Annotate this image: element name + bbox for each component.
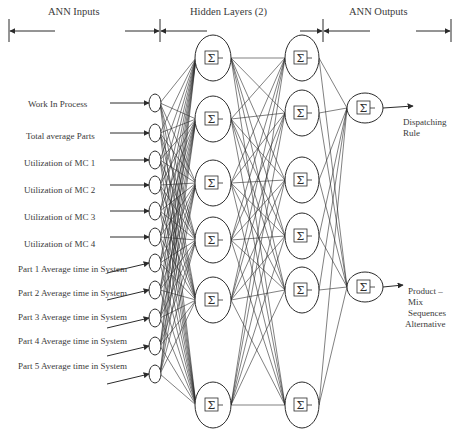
input-node bbox=[149, 309, 161, 327]
input-label-7: Part 2 Average time in System bbox=[18, 288, 127, 298]
input-label-9: Part 4 Average time in System bbox=[18, 336, 127, 346]
sigma-symbol: Σ bbox=[208, 294, 216, 307]
sigma-symbol: Σ bbox=[297, 399, 305, 412]
input-node bbox=[149, 124, 161, 142]
sigma-symbol: Σ bbox=[208, 52, 216, 65]
input-node bbox=[149, 151, 161, 169]
section-label-outputs: ANN Outputs bbox=[349, 6, 408, 17]
section-label-inputs: ANN Inputs bbox=[48, 6, 100, 17]
input-node bbox=[149, 94, 161, 112]
output-label-line: Mix bbox=[408, 297, 446, 308]
hidden2-node: Σ bbox=[285, 157, 319, 203]
sigma-symbol: Σ bbox=[297, 174, 305, 187]
hidden1-node: Σ bbox=[195, 160, 231, 206]
sigma-symbol: Σ bbox=[208, 399, 216, 412]
hidden2-node: Σ bbox=[285, 35, 319, 81]
input-label-5: Utilization of MC 4 bbox=[24, 239, 95, 249]
hidden1-node: Σ bbox=[195, 217, 231, 263]
input-label-1: Total average Parts bbox=[26, 131, 95, 141]
sigma-symbol: Σ bbox=[297, 230, 305, 243]
input-label-0: Work In Process bbox=[28, 99, 87, 109]
input-node bbox=[149, 228, 161, 246]
input-label-3: Utilization of MC 2 bbox=[24, 185, 95, 195]
hidden1-node: Σ bbox=[195, 382, 231, 428]
input-label-10: Part 5 Average time in System bbox=[18, 361, 127, 371]
input-node bbox=[149, 202, 161, 220]
input-label-2: Utilization of MC 1 bbox=[24, 158, 95, 168]
hidden2-node: Σ bbox=[285, 382, 319, 428]
input-label-4: Utilization of MC 3 bbox=[24, 212, 95, 222]
input-node bbox=[149, 281, 161, 299]
input-node bbox=[149, 176, 161, 194]
hidden1-node: Σ bbox=[195, 96, 231, 142]
output-label-dispatching: Dispatching Rule bbox=[403, 117, 447, 139]
sigma-symbol: Σ bbox=[360, 281, 368, 294]
sigma-symbol: Σ bbox=[297, 107, 305, 120]
sigma-symbol: Σ bbox=[297, 284, 305, 297]
section-dividers bbox=[9, 19, 451, 42]
output-label-line: Product – bbox=[408, 286, 446, 297]
input-node bbox=[149, 254, 161, 272]
output-label-line: Rule bbox=[403, 128, 447, 139]
sigma-symbol: Σ bbox=[208, 177, 216, 190]
sigma-symbol: Σ bbox=[208, 113, 216, 126]
input-label-8: Part 3 Average time in System bbox=[18, 312, 127, 322]
sigma-symbol: Σ bbox=[208, 234, 216, 247]
output-label-line: Dispatching bbox=[403, 117, 447, 128]
hidden2-node: Σ bbox=[285, 213, 319, 259]
input-node bbox=[149, 365, 161, 383]
output-node: Σ bbox=[347, 272, 383, 302]
hidden1-node: Σ bbox=[195, 35, 231, 81]
output-node: Σ bbox=[347, 93, 383, 123]
section-label-hidden: Hidden Layers (2) bbox=[190, 6, 267, 17]
output-label-product-mix: Product – Mix Sequences Alternative bbox=[408, 286, 446, 330]
sigma-symbol: Σ bbox=[297, 52, 305, 65]
input-node bbox=[149, 337, 161, 355]
output-label-line: Sequences bbox=[408, 308, 446, 319]
sigma-symbol: Σ bbox=[360, 102, 368, 115]
hidden2-node: Σ bbox=[285, 90, 319, 136]
output-label-line: Alternative bbox=[405, 319, 446, 330]
input-label-6: Part 1 Average time in System bbox=[18, 264, 127, 274]
hidden1-node: Σ bbox=[195, 277, 231, 323]
hidden2-node: Σ bbox=[285, 267, 319, 313]
